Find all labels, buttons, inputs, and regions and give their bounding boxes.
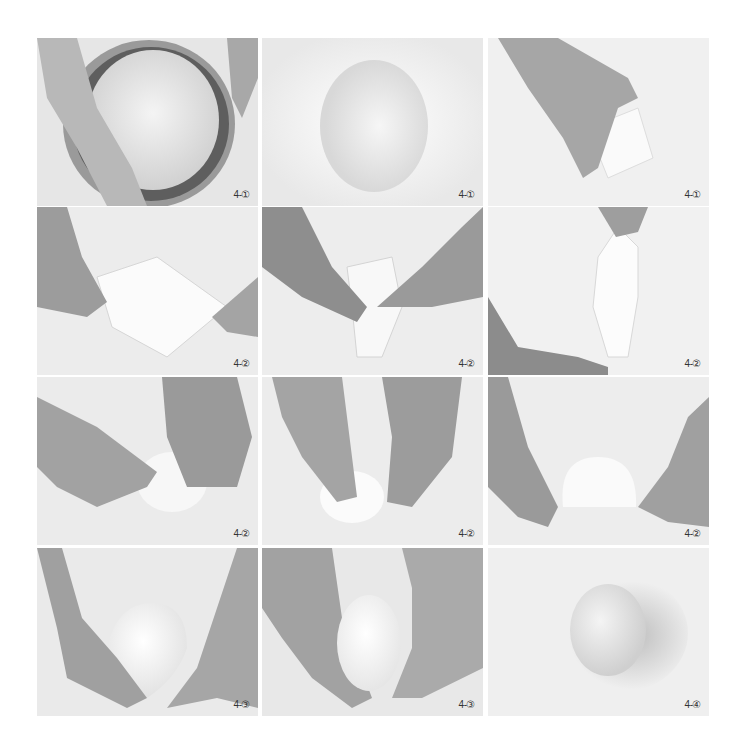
photo-hold-oval: 4-③ xyxy=(262,548,483,716)
photo-stretch-twist: 4-② xyxy=(488,207,709,375)
step-label: 4-④ xyxy=(685,699,701,710)
photo-hand-flatten: 4-① xyxy=(488,38,709,206)
photo-rest-dough: 4-④ xyxy=(488,548,709,716)
photo-image xyxy=(488,38,709,206)
photo-shape-ball: 4-② xyxy=(488,377,709,545)
photo-dough-turned-out: 4-① xyxy=(262,38,483,206)
step-label: 4-② xyxy=(685,528,701,539)
photo-image xyxy=(262,38,483,206)
photo-bowl-lift: 4-① xyxy=(37,38,258,206)
step-label: 4-② xyxy=(685,358,701,369)
photo-pinch-seam: 4-② xyxy=(37,377,258,545)
photo-image xyxy=(37,207,258,375)
photo-image xyxy=(37,548,258,716)
photo-image xyxy=(262,548,483,716)
photo-stretch-square: 4-② xyxy=(37,207,258,375)
step-label: 4-② xyxy=(459,528,475,539)
step-label: 4-① xyxy=(459,189,475,200)
step-label: 4-③ xyxy=(234,699,250,710)
photo-cup-dough: 4-③ xyxy=(37,548,258,716)
step-label: 4-① xyxy=(234,189,250,200)
photo-image xyxy=(37,377,258,545)
photo-image xyxy=(37,38,258,206)
step-label: 4-② xyxy=(459,358,475,369)
step-label: 4-① xyxy=(685,189,701,200)
photo-tuck-ball: 4-② xyxy=(262,377,483,545)
photo-image xyxy=(262,207,483,375)
photo-image xyxy=(488,548,709,716)
step-label: 4-② xyxy=(234,358,250,369)
photo-image xyxy=(488,377,709,545)
photo-fold-corners: 4-② xyxy=(262,207,483,375)
photo-image xyxy=(488,207,709,375)
step-label: 4-③ xyxy=(459,699,475,710)
step-label: 4-② xyxy=(234,528,250,539)
photo-image xyxy=(262,377,483,545)
